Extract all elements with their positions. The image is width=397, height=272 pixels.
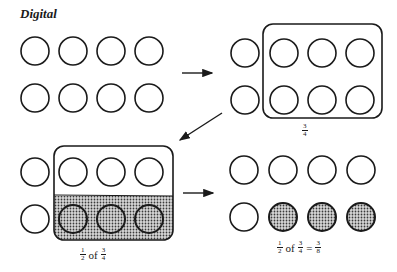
circle bbox=[347, 156, 375, 184]
shaded-circle bbox=[308, 203, 336, 231]
circle bbox=[21, 84, 49, 112]
circle bbox=[135, 37, 163, 65]
circle bbox=[21, 205, 49, 233]
shaded-circle bbox=[347, 203, 375, 231]
fraction: 1 2 bbox=[80, 247, 86, 262]
fraction-diagram bbox=[0, 0, 397, 272]
circle bbox=[346, 39, 374, 67]
group-result bbox=[230, 156, 375, 231]
shaded-circle bbox=[269, 203, 297, 231]
group-start bbox=[21, 37, 163, 112]
circle bbox=[231, 39, 259, 67]
group-half-of-three-quarters bbox=[21, 146, 173, 240]
circle bbox=[97, 84, 125, 112]
circle bbox=[135, 84, 163, 112]
divider bbox=[54, 195, 173, 196]
circle bbox=[59, 37, 87, 65]
selection-box bbox=[263, 24, 382, 118]
arrow-down-left-icon bbox=[180, 113, 222, 140]
circle bbox=[230, 203, 258, 231]
circle bbox=[135, 158, 163, 186]
label-three-quarters: 3 4 bbox=[302, 123, 308, 138]
circle bbox=[231, 86, 259, 114]
label-result: 1 2 of 3 4 = 3 8 bbox=[277, 240, 321, 255]
fraction: 3 4 bbox=[101, 247, 107, 262]
fraction: 1 2 bbox=[277, 240, 283, 255]
circle bbox=[308, 156, 336, 184]
circle bbox=[59, 84, 87, 112]
circle bbox=[21, 158, 49, 186]
circle bbox=[308, 39, 336, 67]
circle bbox=[21, 37, 49, 65]
label-half-of-three-quarters: 1 2 of 3 4 bbox=[80, 247, 106, 262]
circle bbox=[269, 156, 297, 184]
circle bbox=[97, 158, 125, 186]
circle bbox=[230, 156, 258, 184]
fraction: 3 4 bbox=[302, 123, 308, 138]
circle bbox=[308, 86, 336, 114]
group-three-quarters bbox=[231, 24, 382, 118]
circle bbox=[346, 86, 374, 114]
fraction: 3 4 bbox=[298, 240, 304, 255]
circle bbox=[270, 86, 298, 114]
circle bbox=[270, 39, 298, 67]
circle bbox=[59, 158, 87, 186]
fraction: 3 8 bbox=[315, 240, 321, 255]
circle bbox=[97, 37, 125, 65]
